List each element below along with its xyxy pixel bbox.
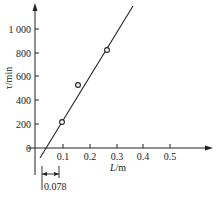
y-ticks bbox=[35, 29, 39, 124]
x-axis-label: L/m bbox=[109, 162, 126, 173]
x-tick-0-2: 0.2 bbox=[84, 151, 97, 162]
arrow-right-icon bbox=[54, 172, 59, 176]
data-point bbox=[60, 120, 65, 125]
y-tick-600: 600 bbox=[16, 71, 31, 82]
y-axis-arrow-icon bbox=[33, 3, 38, 11]
y-tick-200: 200 bbox=[16, 119, 31, 130]
x-ticks bbox=[63, 144, 170, 148]
data-point bbox=[76, 83, 81, 88]
y-tick-400: 400 bbox=[16, 95, 31, 106]
chart: 0 200 400 600 800 1 000 0.1 0.2 0.3 0.4 … bbox=[0, 0, 216, 205]
x-tick-0-5: 0.5 bbox=[164, 151, 177, 162]
x-tick-0-3: 0.3 bbox=[111, 151, 124, 162]
x-tick-0-4: 0.4 bbox=[137, 151, 150, 162]
arrow-left-icon bbox=[42, 172, 47, 176]
y-axis-label: τ/min bbox=[3, 67, 14, 89]
y-tick-1000: 1 000 bbox=[9, 24, 32, 35]
x-tick-0-1: 0.1 bbox=[57, 151, 70, 162]
intercept-label: 0.078 bbox=[44, 181, 67, 192]
y-tick-800: 800 bbox=[16, 48, 31, 59]
fit-line bbox=[40, 6, 133, 158]
y-tick-0: 0 bbox=[26, 143, 31, 154]
x-axis-arrow-icon bbox=[205, 146, 213, 151]
data-point bbox=[105, 48, 110, 53]
